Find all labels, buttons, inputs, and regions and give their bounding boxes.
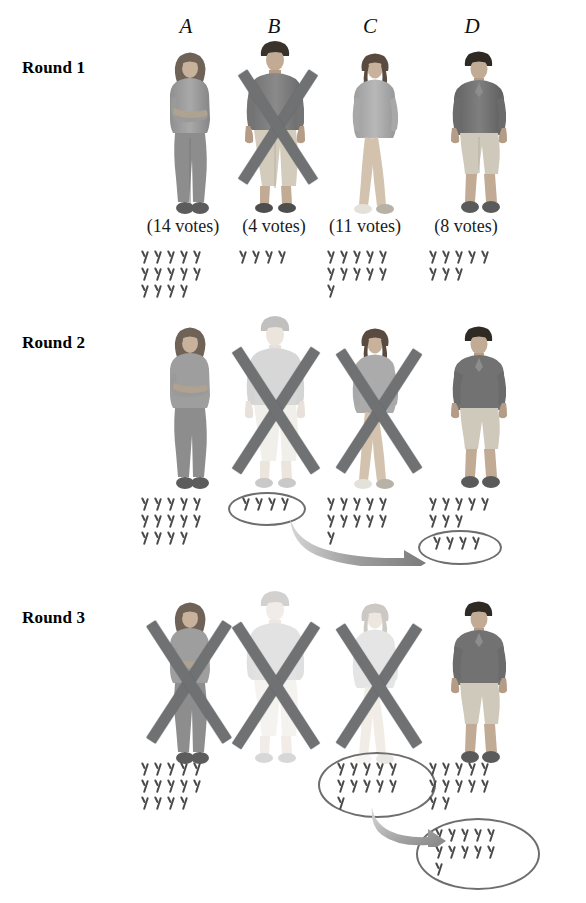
tally-mark-icon: [325, 284, 338, 299]
tally-mark-icon: [453, 779, 466, 794]
tally-mark-icon: [440, 250, 453, 265]
tally-mark-icon: [433, 862, 446, 877]
tally-mark-icon: [348, 779, 361, 794]
tally-mark-icon: [152, 531, 165, 546]
tally-mark-icon: [472, 845, 485, 860]
tally-mark-icon: [364, 250, 377, 265]
tally-mark-icon: [431, 536, 444, 551]
tally-mark-icon: [377, 497, 390, 512]
tally-mark-icon: [485, 845, 498, 860]
tally-mark-icon: [466, 779, 479, 794]
tally-row: [325, 267, 390, 284]
column-letter-b: B: [254, 14, 294, 39]
tally-mark-icon: [152, 284, 165, 299]
transfer-arrow-round2: [288, 516, 428, 570]
tally-mark-icon: [191, 779, 204, 794]
round-label-3: Round 3: [22, 608, 85, 628]
tally-mark-icon: [139, 267, 152, 282]
tally-mark-icon: [165, 762, 178, 777]
tally-mark-icon: [479, 250, 492, 265]
tally-mark-icon: [466, 497, 479, 512]
tally-mark-icon: [427, 250, 440, 265]
tally-row: [139, 514, 204, 531]
elimination-x-c-round2: [337, 340, 421, 482]
tally-mark-icon: [351, 250, 364, 265]
tally-mark-icon: [472, 828, 485, 843]
tally-row: [139, 267, 204, 284]
tally-mark-icon: [387, 762, 400, 777]
tally-mark-icon: [374, 779, 387, 794]
tally-mark-icon: [440, 267, 453, 282]
tally-mark-icon: [152, 762, 165, 777]
tally-mark-icon: [335, 796, 348, 811]
tally-mark-icon: [440, 497, 453, 512]
tally-mark-icon: [139, 796, 152, 811]
tally-row: [427, 250, 492, 267]
elimination-x-b-round3: [232, 613, 320, 758]
tally-row: [325, 250, 390, 267]
tally-row: [325, 284, 390, 301]
elimination-x-b-round1: [243, 62, 313, 192]
tally-mark-icon: [237, 250, 250, 265]
round-label-2: Round 2: [22, 333, 85, 353]
tally-row: [325, 497, 390, 514]
tally-mark-icon: [178, 531, 191, 546]
tally-mark-icon: [466, 250, 479, 265]
tally-mark-icon: [325, 250, 338, 265]
tally-mark-icon: [325, 497, 338, 512]
tally-mark-icon: [440, 514, 453, 529]
tally-mark-icon: [165, 796, 178, 811]
tally-mark-icon: [338, 497, 351, 512]
tally-mark-icon: [479, 497, 492, 512]
tally-mark-icon: [165, 779, 178, 794]
tally-mark-icon: [139, 531, 152, 546]
tally-row: [237, 250, 289, 267]
tally-mark-icon: [453, 762, 466, 777]
tally-a-round2: [139, 497, 204, 548]
tally-mark-icon: [338, 267, 351, 282]
round-label-1: Round 1: [22, 58, 85, 78]
tally-mark-icon: [279, 497, 292, 512]
tally-row: [433, 862, 498, 879]
tally-mark-icon: [453, 250, 466, 265]
tally-mark-icon: [139, 284, 152, 299]
tally-row: [240, 497, 292, 514]
tally-row: [139, 497, 204, 514]
tally-mark-icon: [178, 250, 191, 265]
tally-mark-icon: [276, 250, 289, 265]
elimination-x-b-round2: [232, 338, 320, 483]
tally-d-round2-transferred: [431, 536, 483, 553]
tally-mark-icon: [165, 514, 178, 529]
tally-mark-icon: [191, 514, 204, 529]
tally-mark-icon: [178, 497, 191, 512]
tally-mark-icon: [361, 762, 374, 777]
tally-mark-icon: [427, 497, 440, 512]
tally-mark-icon: [351, 267, 364, 282]
person-d-round3: [446, 600, 512, 768]
tally-b-round1: [237, 250, 289, 267]
tally-a-round1: [139, 250, 204, 301]
tally-a-round3: [139, 762, 204, 813]
tally-mark-icon: [152, 514, 165, 529]
tally-row: [427, 267, 492, 284]
person-a-round1: [158, 48, 222, 216]
tally-mark-icon: [459, 845, 472, 860]
tally-mark-icon: [427, 267, 440, 282]
tally-row: [139, 284, 204, 301]
tally-mark-icon: [178, 267, 191, 282]
tally-mark-icon: [165, 284, 178, 299]
tally-mark-icon: [139, 250, 152, 265]
tally-row: [427, 497, 492, 514]
tally-mark-icon: [387, 779, 400, 794]
person-d-round2: [446, 325, 512, 493]
tally-mark-icon: [139, 779, 152, 794]
tally-mark-icon: [453, 267, 466, 282]
person-c-round1: [344, 52, 406, 218]
runoff-voting-figure: A B C D Round 1 Round 2 Round 3: [0, 0, 586, 903]
tally-mark-icon: [440, 762, 453, 777]
tally-mark-icon: [453, 497, 466, 512]
tally-mark-icon: [335, 762, 348, 777]
tally-mark-icon: [377, 250, 390, 265]
tally-mark-icon: [178, 514, 191, 529]
vote-caption-d-round1: (8 votes): [403, 216, 529, 237]
